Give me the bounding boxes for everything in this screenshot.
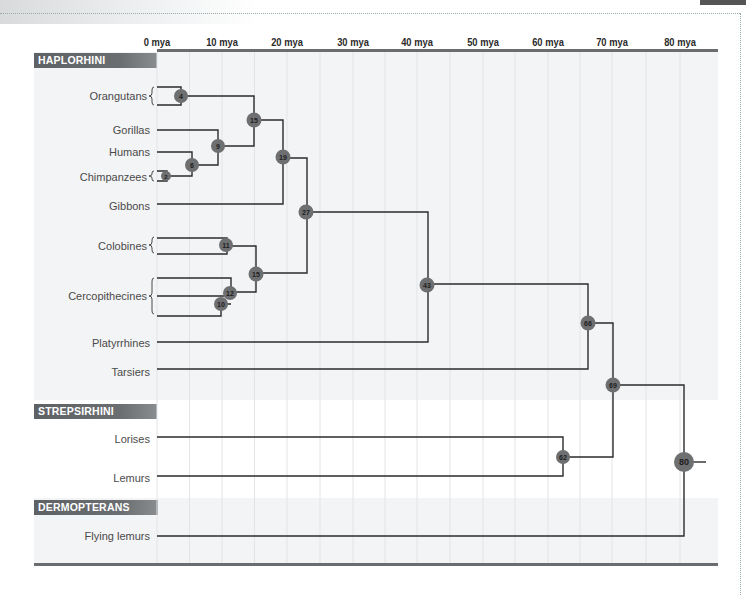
node-15-apes: 15	[247, 113, 262, 128]
node-80-root: 80	[674, 452, 694, 472]
svg-text:12: 12	[226, 290, 234, 297]
node-2: 2	[161, 171, 171, 181]
grid-lines	[157, 52, 680, 563]
node-12: 12	[223, 286, 237, 300]
brace-colobines	[149, 237, 154, 253]
node-43: 43	[420, 278, 435, 293]
svg-text:11: 11	[222, 242, 230, 249]
node-66: 66	[581, 316, 596, 331]
svg-text:15: 15	[252, 271, 260, 278]
node-15-owm: 15	[249, 267, 264, 282]
node-11: 11	[219, 238, 233, 252]
branches	[157, 87, 706, 536]
svg-text:66: 66	[584, 320, 592, 327]
node-27: 27	[299, 205, 314, 220]
clade-braces	[149, 87, 154, 314]
node-69: 69	[606, 378, 621, 393]
brace-chimpanzees	[149, 171, 154, 181]
svg-text:43: 43	[423, 282, 431, 289]
svg-text:4: 4	[179, 93, 183, 100]
node-10: 10	[214, 297, 228, 311]
node-6: 6	[185, 158, 199, 172]
node-9: 9	[211, 139, 225, 153]
node-19: 19	[276, 150, 291, 165]
phylogenetic-tree: 4 2 6 9 15 19 27 11	[0, 0, 746, 595]
svg-text:10: 10	[217, 301, 225, 308]
node-4: 4	[174, 89, 188, 103]
brace-cercopithecines	[149, 278, 154, 314]
svg-text:19: 19	[279, 154, 287, 161]
brace-orangutans	[149, 87, 154, 105]
svg-text:6: 6	[190, 162, 194, 169]
svg-text:27: 27	[302, 209, 310, 216]
svg-text:15: 15	[250, 117, 258, 124]
svg-text:80: 80	[679, 457, 689, 467]
node-62: 62	[556, 450, 570, 464]
svg-text:69: 69	[609, 382, 617, 389]
svg-text:62: 62	[559, 454, 567, 461]
svg-text:9: 9	[216, 143, 220, 150]
